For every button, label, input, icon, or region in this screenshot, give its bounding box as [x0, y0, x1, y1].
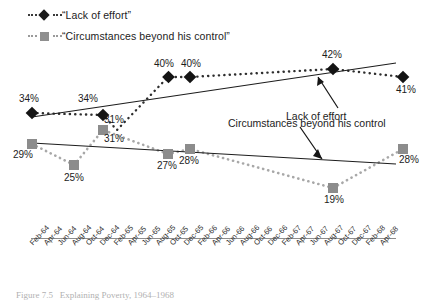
value-label-lack-of-effort-3: 40% — [154, 58, 174, 69]
chart-plot-area: 34% 34% 31% 40% 40% 42% 41% 29% 25% 31% … — [0, 44, 425, 229]
legend-item-circumstances: “Circumstances beyond his control” — [28, 27, 358, 44]
value-label-circumstances-0: 29% — [13, 149, 33, 160]
value-label-circumstances-1: 25% — [64, 172, 84, 183]
figure-explaining-poverty: “Lack of effort” “Circumstances beyond h… — [0, 0, 425, 301]
value-label-lack-of-effort-2: 31% — [104, 114, 124, 125]
x-axis-tick-labels: Feb-64 Apr-64 Jun-64 Aug-64 Oct-64 Dec-6… — [0, 241, 425, 287]
value-label-lack-of-effort-5: 42% — [322, 49, 342, 60]
callout-arrowhead-circumstances — [313, 149, 322, 159]
value-label-lack-of-effort-4: 40% — [181, 58, 201, 69]
legend-item-lack-of-effort: “Lack of effort” — [28, 6, 358, 23]
series-line-circumstances — [32, 130, 403, 188]
chart-svg — [0, 44, 425, 229]
legend-label-lack-of-effort: “Lack of effort” — [62, 9, 131, 21]
value-label-lack-of-effort-6: 41% — [396, 84, 416, 95]
value-label-circumstances-2: 31% — [104, 133, 124, 144]
figure-caption: Figure 7.5 Explaining Poverty, 1964–1968 — [16, 290, 174, 300]
value-label-lack-of-effort-1: 34% — [78, 93, 98, 104]
value-label-circumstances-5: 19% — [324, 194, 344, 205]
value-label-lack-of-effort-0: 34% — [19, 93, 39, 104]
legend-key-diamond-icon — [28, 9, 62, 21]
legend-label-circumstances: “Circumstances beyond his control” — [62, 30, 230, 42]
value-label-circumstances-4: 28% — [179, 155, 199, 166]
trendline-circumstances — [32, 143, 396, 164]
markers-lack-of-effort — [26, 63, 410, 122]
figure-caption-title: Explaining Poverty, 1964–1968 — [60, 290, 174, 300]
trendline-lack-of-effort — [32, 63, 396, 117]
legend-key-square-icon — [28, 30, 62, 42]
diamond-marker-icon — [38, 9, 49, 20]
annotation-circumstances: Circumstances beyond his control — [228, 117, 386, 129]
value-label-circumstances-3: 27% — [157, 160, 177, 171]
markers-circumstances — [27, 125, 408, 193]
figure-caption-number: Figure 7.5 — [16, 290, 53, 300]
square-marker-icon — [40, 32, 49, 41]
value-label-circumstances-6: 28% — [399, 154, 419, 165]
chart-legend: “Lack of effort” “Circumstances beyond h… — [28, 6, 358, 44]
